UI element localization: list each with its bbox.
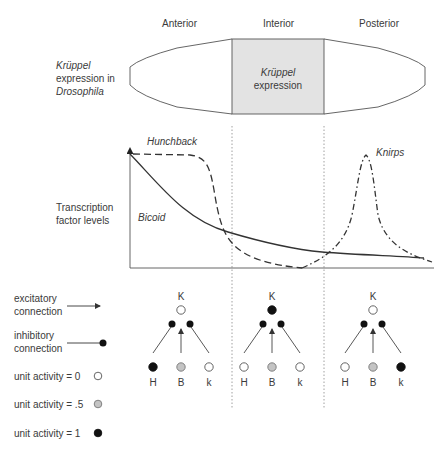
output-label-k: K	[262, 290, 282, 303]
input-label-k: k	[290, 376, 310, 389]
embryo-side-label-line1: Krüppel	[56, 59, 115, 72]
activity-1-icon	[94, 429, 102, 437]
activity-05-icon	[94, 400, 102, 408]
region-label-anterior: Anterior	[162, 17, 197, 30]
input-unit-k	[205, 363, 213, 371]
legend-inhibitory-line1: inhibitory	[14, 329, 62, 342]
network-interior	[240, 306, 304, 371]
input-unit-b	[369, 363, 377, 371]
region-label-posterior: Posterior	[359, 17, 399, 30]
gradient-side-label-line1: Transcription	[56, 201, 113, 214]
input-unit-h	[240, 363, 248, 371]
inhibitory-synapse-icon	[169, 321, 176, 328]
legend-activity-0-label: unit activity = 0	[14, 370, 80, 383]
input-label-k: k	[391, 376, 411, 389]
input-label-b: B	[363, 376, 383, 389]
gradient-side-label: Transcription factor levels	[56, 201, 113, 227]
output-unit-k	[268, 306, 276, 314]
embryo-center-label: Krüppel expression	[232, 66, 324, 92]
region-label-interior: Interior	[263, 17, 294, 30]
legend-activity-05-label: unit activity = .5	[14, 398, 83, 411]
legend-excitatory-label: excitatory connection	[14, 292, 62, 318]
legend-inhibitory-label: inhibitory connection	[14, 329, 62, 355]
networks-layer	[149, 306, 405, 371]
network-anterior	[149, 306, 213, 371]
inhibitory-dot-icon	[100, 340, 107, 347]
gradient-side-label-line2: factor levels	[56, 214, 113, 227]
input-label-h: H	[234, 376, 254, 389]
embryo-side-label: Krüppel expression in Drosophila	[56, 59, 115, 98]
legend-inhibitory-line2: connection	[14, 342, 62, 355]
output-unit-k	[177, 306, 185, 314]
input-unit-h	[341, 363, 349, 371]
input-label-b: B	[262, 376, 282, 389]
inhibitory-synapse-icon	[379, 321, 386, 328]
input-unit-k	[296, 363, 304, 371]
output-label-k: K	[171, 290, 191, 303]
embryo-center-label-line1: Krüppel	[232, 66, 324, 79]
inhibitory-synapse-icon	[278, 321, 285, 328]
inhibitory-synapse-icon	[361, 321, 368, 328]
input-label-h: H	[335, 376, 355, 389]
input-unit-k	[397, 363, 405, 371]
gradient-axes	[130, 153, 434, 268]
knirps-curve	[302, 155, 432, 268]
output-unit-k	[369, 306, 377, 314]
bicoid-label: Bicoid	[138, 211, 165, 224]
legend-excitatory-line2: connection	[14, 305, 62, 318]
input-unit-h	[149, 363, 157, 371]
hunchback-label: Hunchback	[147, 135, 197, 148]
activity-0-icon	[94, 372, 102, 380]
legend-excitatory-line1: excitatory	[14, 292, 62, 305]
input-label-h: H	[143, 376, 163, 389]
output-label-k: K	[363, 290, 383, 303]
bicoid-curve	[130, 154, 424, 258]
input-label-b: B	[171, 376, 191, 389]
inhibitory-synapse-icon	[187, 321, 194, 328]
input-label-k: k	[199, 376, 219, 389]
embryo-center-label-line2: expression	[232, 79, 324, 92]
embryo-side-label-line2: expression in	[56, 72, 115, 85]
embryo-side-label-line3: Drosophila	[56, 85, 115, 98]
inhibitory-synapse-icon	[260, 321, 267, 328]
network-posterior	[341, 306, 405, 371]
legend-activity-1-label: unit activity = 1	[14, 427, 80, 440]
input-unit-b	[268, 363, 276, 371]
input-unit-b	[177, 363, 185, 371]
knirps-label: Knirps	[376, 146, 404, 159]
